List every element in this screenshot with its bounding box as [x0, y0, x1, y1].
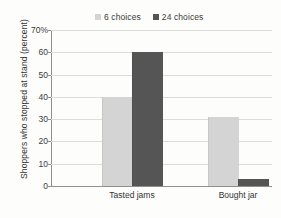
y-tick-label: 50	[39, 70, 48, 80]
y-tick-label: 30	[39, 114, 48, 124]
gridline	[51, 30, 272, 31]
y-tick-label: 10	[39, 159, 48, 169]
legend-label-24-choices: 24 choices	[162, 12, 204, 22]
y-tick-label: 70%	[31, 25, 48, 35]
bar-bought-jar-24-choices	[238, 179, 269, 186]
legend-item-6-choices: 6 choices	[95, 12, 141, 22]
legend-label-6-choices: 6 choices	[104, 12, 141, 22]
bar-chart: 6 choices 24 choices Shoppers who stoppe…	[0, 0, 281, 218]
bar-bought-jar-6-choices	[208, 117, 239, 186]
bar-tasted-jams-24-choices	[132, 52, 163, 186]
legend-swatch-light-icon	[95, 14, 101, 20]
y-tick-label: 40	[39, 92, 48, 102]
legend-item-24-choices: 24 choices	[153, 12, 204, 22]
legend-swatch-dark-icon	[153, 14, 159, 20]
y-tick-label: 60	[39, 47, 48, 57]
plot-area	[51, 30, 272, 186]
x-axis-line	[51, 186, 272, 187]
y-tick-label: 20	[39, 136, 48, 146]
bar-tasted-jams-6-choices	[102, 97, 133, 186]
y-axis-title: Shoppers who stopped at stand (percent)	[19, 9, 29, 189]
category-label-bought-jar: Bought jar	[219, 190, 258, 200]
category-label-tasted-jams: Tasted jams	[109, 190, 154, 200]
chart-legend: 6 choices 24 choices	[95, 12, 203, 22]
